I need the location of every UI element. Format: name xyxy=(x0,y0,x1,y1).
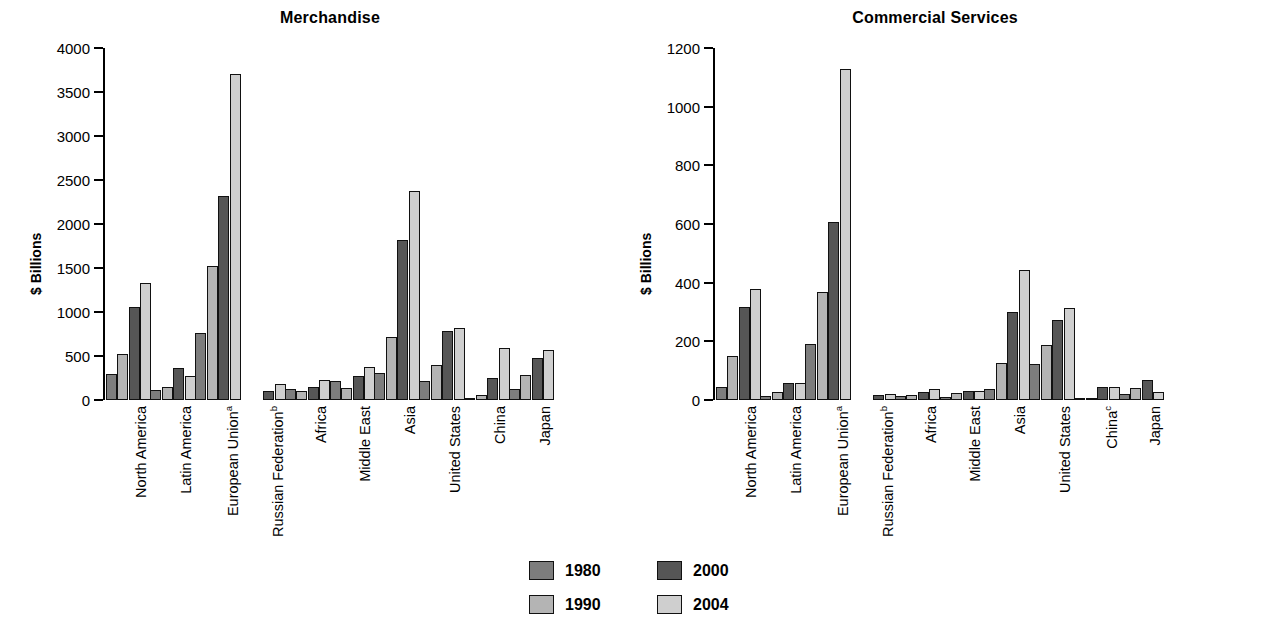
chart-legend: 1980199020002004 xyxy=(529,561,779,623)
bar-merchandise-2-1990 xyxy=(207,266,218,400)
category-label-merchandise-3: Russian Federationb xyxy=(268,406,286,537)
bar-services-7-1990 xyxy=(1041,345,1052,400)
bar-merchandise-8-2000 xyxy=(487,378,498,400)
bar-services-0-1990 xyxy=(727,356,738,400)
y-tick-merchandise-2500 xyxy=(94,179,103,181)
bar-group-services-1 xyxy=(760,48,806,400)
chart-title-services: Commercial Services xyxy=(770,9,1100,27)
bar-merchandise-3-2000 xyxy=(263,391,274,400)
bar-services-8-1990 xyxy=(1086,398,1097,400)
y-tick-merchandise-3500 xyxy=(94,91,103,93)
y-tick-label-merchandise-500: 500 xyxy=(65,348,90,365)
y-tick-services-400 xyxy=(704,282,713,284)
bar-services-9-2000 xyxy=(1142,380,1153,400)
y-tick-services-1200 xyxy=(704,47,713,49)
bar-services-4-1990 xyxy=(906,395,917,400)
y-tick-merchandise-0 xyxy=(94,399,103,401)
bar-group-services-2 xyxy=(805,48,851,400)
bar-merchandise-1-2000 xyxy=(173,368,184,400)
category-label-services-7: United States xyxy=(1057,406,1073,493)
bar-merchandise-1-1980 xyxy=(150,390,161,400)
category-label-merchandise-4: Africa xyxy=(313,406,329,443)
bar-merchandise-1-1990 xyxy=(162,387,173,400)
y-axis-label-merchandise: $ Billions xyxy=(28,233,44,295)
bar-services-9-1980 xyxy=(1119,394,1130,400)
chart-title-merchandise: Merchandise xyxy=(180,9,480,27)
bar-services-1-1980 xyxy=(760,396,771,400)
bar-merchandise-0-1990 xyxy=(117,354,128,400)
bar-services-9-1990 xyxy=(1130,388,1141,400)
bar-merchandise-0-1980 xyxy=(106,374,117,400)
bar-group-merchandise-0 xyxy=(106,48,152,400)
y-tick-services-600 xyxy=(704,223,713,225)
bar-services-1-2000 xyxy=(783,383,794,400)
legend-label-1990: 1990 xyxy=(565,596,601,614)
bar-services-2-1980 xyxy=(805,344,816,400)
y-tick-label-services-1000: 1000 xyxy=(667,98,700,115)
category-label-merchandise-0: North America xyxy=(133,406,149,498)
bar-services-5-1990 xyxy=(951,393,962,400)
bar-group-merchandise-3 xyxy=(240,48,286,400)
legend-swatch-2000 xyxy=(657,561,682,580)
legend-item-1980[interactable]: 1980 xyxy=(529,561,601,580)
bar-merchandise-5-1980 xyxy=(330,381,341,400)
category-note-merchandise-2: a xyxy=(223,406,234,411)
legend-swatch-2004 xyxy=(657,595,682,614)
y-tick-label-merchandise-4000: 4000 xyxy=(57,40,90,57)
y-tick-label-merchandise-2000: 2000 xyxy=(57,216,90,233)
legend-item-1990[interactable]: 1990 xyxy=(529,595,601,614)
bar-merchandise-9-2004 xyxy=(543,350,554,400)
bar-merchandise-7-1980 xyxy=(419,381,430,400)
bar-services-0-2000 xyxy=(739,307,750,400)
bar-merchandise-8-1980 xyxy=(464,398,475,400)
bar-merchandise-4-1980 xyxy=(285,389,296,400)
category-label-services-1: Latin America xyxy=(788,406,804,494)
category-label-services-4: Africa xyxy=(923,406,939,443)
y-tick-label-services-600: 600 xyxy=(675,216,700,233)
bar-group-merchandise-6 xyxy=(374,48,420,400)
chart-panel-merchandise: Merchandise $ Billions 05001000150020002… xyxy=(0,0,620,638)
y-tick-services-800 xyxy=(704,164,713,166)
plot-area-services: 020040060080010001200 xyxy=(713,48,1161,400)
bar-group-merchandise-7 xyxy=(419,48,465,400)
bar-services-8-1980 xyxy=(1074,398,1085,400)
category-label-merchandise-7: United States xyxy=(447,406,463,493)
y-tick-merchandise-500 xyxy=(94,355,103,357)
category-label-services-2: European Uniona xyxy=(833,406,851,516)
bar-merchandise-7-1990 xyxy=(431,365,442,400)
bar-group-services-0 xyxy=(716,48,762,400)
y-tick-label-merchandise-3500: 3500 xyxy=(57,84,90,101)
bar-services-6-1990 xyxy=(996,363,1007,400)
bar-merchandise-0-2000 xyxy=(129,307,140,400)
legend-label-2004: 2004 xyxy=(693,596,729,614)
bar-services-2-1990 xyxy=(817,292,828,400)
category-label-services-5: Middle East xyxy=(967,406,983,482)
category-label-services-0: North America xyxy=(743,406,759,498)
bar-services-7-1980 xyxy=(1029,364,1040,400)
legend-label-1980: 1980 xyxy=(565,562,601,580)
bar-services-6-1980 xyxy=(984,389,995,400)
bar-merchandise-6-1980 xyxy=(374,373,385,400)
legend-label-2000: 2000 xyxy=(693,562,729,580)
category-label-services-8: Chinac xyxy=(1102,406,1120,449)
bar-group-merchandise-2 xyxy=(195,48,241,400)
legend-swatch-1990 xyxy=(529,595,554,614)
category-label-merchandise-2: European Uniona xyxy=(223,406,241,516)
bar-services-4-2000 xyxy=(918,392,929,401)
bar-merchandise-5-2000 xyxy=(353,376,364,400)
y-tick-label-merchandise-1500: 1500 xyxy=(57,260,90,277)
legend-item-2004[interactable]: 2004 xyxy=(657,595,729,614)
legend-item-2000[interactable]: 2000 xyxy=(657,561,729,580)
bar-merchandise-6-2000 xyxy=(397,240,408,400)
bar-merchandise-4-2000 xyxy=(308,387,319,400)
y-axis-label-services: $ Billions xyxy=(638,233,654,295)
category-label-merchandise-9: Japan xyxy=(537,406,553,446)
bar-services-4-1980 xyxy=(895,396,906,400)
bar-group-services-5 xyxy=(940,48,986,400)
bar-group-merchandise-4 xyxy=(285,48,331,400)
bar-group-services-7 xyxy=(1029,48,1075,400)
bar-merchandise-4-1990 xyxy=(296,391,307,400)
y-tick-label-merchandise-3000: 3000 xyxy=(57,128,90,145)
bar-group-merchandise-9 xyxy=(509,48,555,400)
bar-merchandise-6-1990 xyxy=(386,337,397,400)
